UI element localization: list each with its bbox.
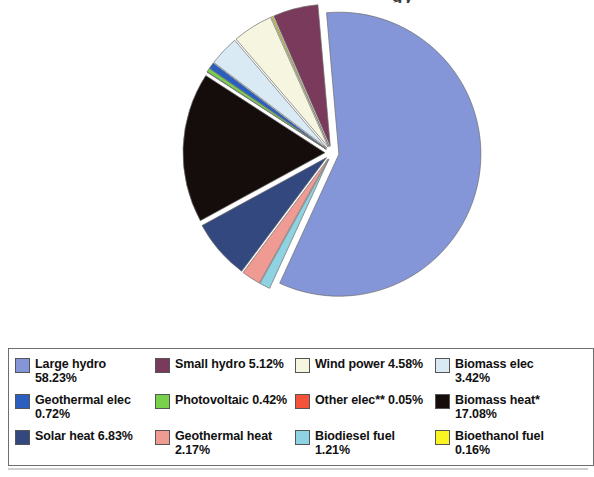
legend-label-wind-power: Wind power 4.58% (315, 357, 423, 371)
legend-swatch-large-hydro (15, 358, 30, 373)
legend-item-small-hydro[interactable]: Small hydro 5.12% (155, 355, 295, 391)
legend-swatch-solar-heat (15, 430, 30, 445)
pie-slice-group (183, 5, 481, 296)
legend-bottom-edge (8, 468, 588, 470)
legend-swatch-geothermal-elec (15, 394, 30, 409)
legend-label-small-hydro: Small hydro 5.12% (175, 357, 284, 371)
legend-item-bioethanol-fuel[interactable]: Bioethanol fuel 0.16% (435, 427, 594, 463)
legend-label-other-elec: Other elec** 0.05% (315, 393, 423, 407)
legend-swatch-bioethanol-fuel (435, 430, 450, 445)
legend-item-photovoltaic[interactable]: Photovoltaic 0.42% (155, 391, 295, 427)
legend-swatch-biomass-heat (435, 394, 450, 409)
legend-grid: Large hydro 58.23%Small hydro 5.12%Wind … (15, 355, 594, 463)
legend-label-geothermal-heat: Geothermal heat 2.17% (175, 429, 272, 457)
legend-swatch-other-elec (295, 394, 310, 409)
legend-label-large-hydro: Large hydro 58.23% (35, 357, 106, 385)
chart-legend: Large hydro 58.23%Small hydro 5.12%Wind … (8, 348, 594, 466)
legend-label-photovoltaic: Photovoltaic 0.42% (175, 393, 287, 407)
legend-label-solar-heat: Solar heat 6.83% (35, 429, 133, 443)
legend-label-biodiesel-fuel: Biodiesel fuel 1.21% (315, 429, 395, 457)
legend-item-large-hydro[interactable]: Large hydro 58.23% (15, 355, 155, 391)
pie-chart-graphic (0, 0, 588, 340)
legend-item-biodiesel-fuel[interactable]: Biodiesel fuel 1.21% (295, 427, 435, 463)
legend-label-geothermal-elec: Geothermal elec 0.72% (35, 393, 131, 421)
legend-swatch-wind-power (295, 358, 310, 373)
legend-label-biomass-elec: Biomass elec 3.42% (455, 357, 534, 385)
legend-item-wind-power[interactable]: Wind power 4.58% (295, 355, 435, 391)
pie-chart-area: gy (0, 0, 588, 340)
legend-item-geothermal-heat[interactable]: Geothermal heat 2.17% (155, 427, 295, 463)
legend-swatch-photovoltaic (155, 394, 170, 409)
legend-label-bioethanol-fuel: Bioethanol fuel 0.16% (455, 429, 544, 457)
legend-swatch-small-hydro (155, 358, 170, 373)
legend-swatch-biodiesel-fuel (295, 430, 310, 445)
legend-item-other-elec[interactable]: Other elec** 0.05% (295, 391, 435, 427)
legend-item-geothermal-elec[interactable]: Geothermal elec 0.72% (15, 391, 155, 427)
legend-item-solar-heat[interactable]: Solar heat 6.83% (15, 427, 155, 463)
legend-item-biomass-heat[interactable]: Biomass heat* 17.08% (435, 391, 594, 427)
legend-item-biomass-elec[interactable]: Biomass elec 3.42% (435, 355, 594, 391)
legend-swatch-geothermal-heat (155, 430, 170, 445)
legend-swatch-biomass-elec (435, 358, 450, 373)
legend-label-biomass-heat: Biomass heat* 17.08% (455, 393, 540, 421)
